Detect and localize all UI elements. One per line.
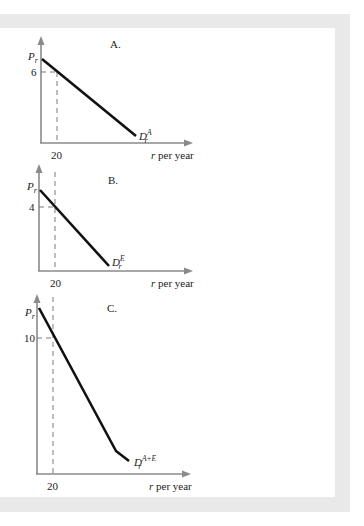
y-axis-label: Pr [27,50,39,65]
panel-b: B. Pr 4 20 r per year DEr [26,164,194,289]
x-axis-label: r per year [149,480,192,492]
y-axis-label: Pr [24,306,36,321]
y-tick-label: 4 [29,201,35,213]
y-axis-arrow-icon [38,36,45,45]
y-tick-label: 10 [24,332,36,344]
curve-label: DA+Er [133,454,157,471]
curve-label: DEr [111,254,125,271]
panel-a: A. Pr 6 20 r per year DAr [27,36,194,161]
y-tick-label: 6 [31,66,37,78]
panel-title: C. [107,302,117,314]
demand-curves-figure: A. Pr 6 20 r per year DAr B. Pr 4 20 r p… [0,0,364,526]
y-axis-label: Pr [26,180,38,195]
x-tick-label: 20 [51,149,63,161]
panel-title: A. [110,38,121,50]
demand-curve-c [39,308,129,461]
y-axis-arrow-icon [36,164,43,173]
x-axis-label: r per year [151,277,194,289]
x-axis-arrow-icon [182,471,191,478]
x-axis-arrow-icon [184,140,193,147]
x-axis-label: r per year [151,149,194,161]
x-tick-label: 20 [47,480,59,492]
x-axis-arrow-icon [184,268,193,275]
demand-curve-a [42,59,136,136]
demand-curve-b [40,190,109,266]
panel-title: B. [108,174,118,186]
panel-c: C. Pr 10 20 r per year DA+Er [24,294,192,492]
y-axis-arrow-icon [34,294,41,303]
x-tick-label: 20 [50,277,62,289]
